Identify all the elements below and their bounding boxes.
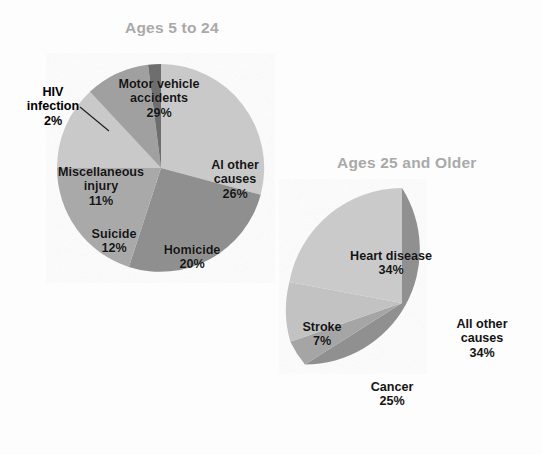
label-heart-disease-pct: 34% — [332, 263, 450, 278]
label-all-other-causes-young-pct: 26% — [192, 187, 278, 202]
label-miscellaneous-injury-pct: 11% — [46, 194, 156, 209]
label-homicide-pct: 20% — [150, 257, 234, 272]
label-cancer-text: Cancer — [371, 380, 414, 394]
label-heart-disease: Heart disease 34% — [332, 234, 450, 292]
label-heart-disease-text: Heart disease — [350, 249, 432, 263]
chart-title-ages-5-to-24: Ages 5 to 24 — [125, 19, 219, 37]
label-cancer-pct: 25% — [355, 394, 429, 409]
label-hiv-infection-text: HIV infection — [27, 85, 79, 114]
label-all-other-causes-older: All other causes 34% — [442, 302, 522, 375]
label-miscellaneous-injury-text: Miscellaneous injury — [58, 165, 144, 194]
label-all-other-causes-young-text: Al other causes — [211, 158, 259, 187]
label-all-other-causes-young: Al other causes 26% — [192, 143, 278, 216]
label-stroke: Stroke 7% — [291, 305, 353, 363]
label-cancer: Cancer 25% — [355, 365, 429, 423]
label-stroke-pct: 7% — [291, 334, 353, 349]
label-motor-vehicle-accidents-text: Motor vehicle accidents — [118, 77, 199, 106]
chart-title-ages-25-and-older: Ages 25 and Older — [337, 154, 477, 172]
label-motor-vehicle-accidents: Motor vehicle accidents 29% — [98, 62, 220, 135]
label-suicide-pct: 12% — [78, 241, 150, 256]
label-miscellaneous-injury: Miscellaneous injury 11% — [46, 150, 156, 223]
label-suicide-text: Suicide — [92, 227, 137, 241]
figure-canvas: Ages 5 to 24 Ages 25 and Older Motor veh… — [0, 0, 542, 455]
label-homicide-text: Homicide — [164, 243, 221, 257]
label-all-other-causes-older-pct: 34% — [442, 346, 522, 361]
label-homicide: Homicide 20% — [150, 228, 234, 286]
label-all-other-causes-older-text: All other causes — [456, 317, 507, 346]
label-stroke-text: Stroke — [302, 320, 341, 334]
label-hiv-infection-pct: 2% — [13, 114, 93, 129]
label-motor-vehicle-accidents-pct: 29% — [98, 106, 220, 121]
label-hiv-infection: HIV infection 2% — [13, 70, 93, 143]
